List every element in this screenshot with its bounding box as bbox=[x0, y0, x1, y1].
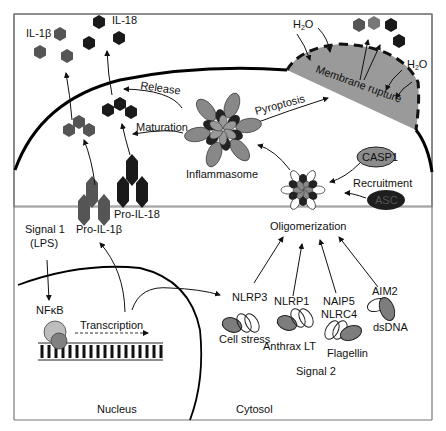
transcription-label: Transcription bbox=[80, 319, 143, 331]
asc-label: ASC bbox=[375, 194, 398, 206]
pyroptosis-label: Pyroptosis bbox=[253, 92, 306, 117]
casp1-label: CASP1 bbox=[362, 151, 398, 163]
inflammasome-label: Inflammasome bbox=[186, 168, 258, 180]
nlrp1-sensor-icon bbox=[275, 306, 316, 333]
ligand-dsdna: dsDNA bbox=[373, 321, 409, 333]
il1b-mature bbox=[63, 115, 95, 137]
lps-label: (LPS) bbox=[30, 237, 58, 249]
ligand-flagellin: Flagellin bbox=[327, 347, 368, 359]
sensor-name-nlrp1: NLRP1 bbox=[274, 295, 309, 307]
il1b-label: IL-1β bbox=[26, 27, 51, 39]
sensor-name-aim2: AIM2 bbox=[372, 285, 398, 297]
pro-il18-label: Pro-IL-18 bbox=[114, 208, 160, 220]
ligand-anthrax-lt: Anthrax LT bbox=[263, 340, 316, 352]
nfkb-complex bbox=[44, 321, 67, 349]
signal1-label: Signal 1 bbox=[25, 223, 65, 235]
il18-mature bbox=[102, 97, 137, 119]
sensor-name-nlrp3: NLRP3 bbox=[232, 291, 267, 303]
recruitment-label: Recruitment bbox=[353, 177, 412, 189]
sensor-name-nlrc4: NLRC4 bbox=[321, 308, 357, 320]
oligomerization-label: Oligomerization bbox=[270, 220, 346, 232]
sensor-name-naip5: NAIP5 bbox=[323, 295, 355, 307]
pro-il1b bbox=[78, 176, 110, 226]
h2o-right-label: H2O bbox=[407, 58, 428, 71]
cytokines-released-rupture bbox=[353, 16, 405, 48]
oligomer-complex bbox=[281, 169, 325, 211]
nucleus-label: Nucleus bbox=[97, 403, 137, 415]
h2o-top-label: H2O bbox=[293, 18, 314, 31]
maturation-label: Maturation bbox=[136, 121, 188, 133]
inflammasome-complex bbox=[183, 91, 262, 169]
il18-label: IL-18 bbox=[112, 14, 137, 26]
naip5-nlrc4-sensor-icon bbox=[322, 318, 364, 343]
nlrp3-sensor-icon bbox=[220, 311, 262, 335]
pro-il18 bbox=[117, 154, 148, 208]
cytosol-label: Cytosol bbox=[236, 403, 273, 415]
signal2-label: Signal 2 bbox=[296, 365, 336, 377]
inflammasome-diagram: IL-1β IL-18 H2O H2O Membrane rupture Rel… bbox=[0, 0, 446, 431]
nfkb-label: NFκB bbox=[36, 304, 64, 316]
aim2-sensor-icon bbox=[366, 295, 398, 322]
pro-il1b-label: Pro-IL-1β bbox=[76, 223, 122, 235]
